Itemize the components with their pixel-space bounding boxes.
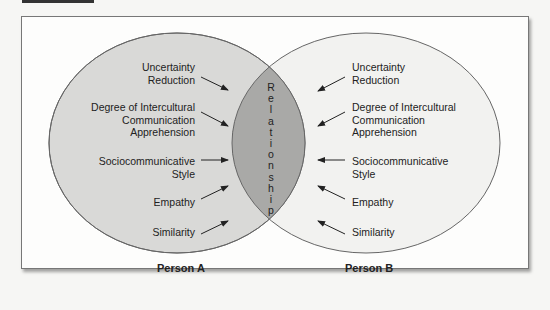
person-a-label: Person A	[157, 262, 205, 274]
factor-b-uncertainty: Uncertainty Reduction	[352, 61, 492, 86]
factor-a-similarity: Similarity	[60, 226, 195, 239]
person-b-label: Person B	[345, 262, 393, 274]
factor-a-apprehension: Degree of Intercultural Communication Ap…	[60, 101, 195, 139]
factor-a-uncertainty: Uncertainty Reduction	[60, 61, 195, 86]
factor-b-sociocommunicative: Sociocommunicative Style	[352, 155, 492, 180]
relationship-label: R e l a t i o n s h i p	[265, 82, 277, 216]
factor-a-sociocommunicative: Sociocommunicative Style	[60, 155, 195, 180]
factor-b-apprehension: Degree of Intercultural Communication Ap…	[352, 101, 492, 139]
factor-b-similarity: Similarity	[352, 226, 492, 239]
factor-b-empathy: Empathy	[352, 196, 492, 209]
factor-a-empathy: Empathy	[60, 196, 195, 209]
